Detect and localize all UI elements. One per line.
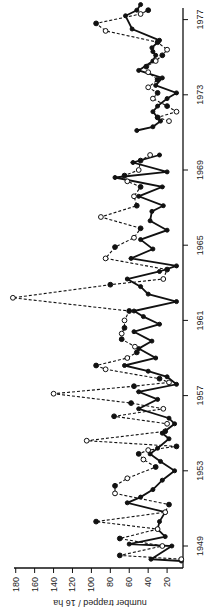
data-point: [146, 85, 151, 90]
data-point: [133, 344, 138, 349]
data-point: [155, 527, 160, 532]
data-point: [125, 476, 130, 481]
data-point: [165, 228, 169, 232]
data-point: [141, 315, 145, 319]
data-point: [175, 264, 179, 268]
data-point: [129, 401, 134, 406]
data-point: [170, 544, 174, 548]
y-tick-label: 120: [67, 577, 77, 592]
data-point: [99, 215, 104, 220]
x-tick-label: 1965: [195, 235, 205, 255]
data-point: [132, 194, 137, 199]
data-point: [175, 300, 179, 304]
data-point: [144, 64, 149, 69]
data-point: [148, 219, 152, 223]
data-point: [151, 96, 156, 101]
series-dashed: [11, 8, 184, 562]
data-point: [112, 414, 117, 419]
data-point: [125, 356, 130, 361]
data-point: [160, 53, 165, 58]
series-line: [96, 10, 176, 121]
data-point: [167, 502, 172, 507]
data-point: [153, 465, 158, 470]
y-tick-label: 60: [124, 577, 134, 587]
x-tick-label: 1953: [195, 461, 205, 481]
data-point: [158, 153, 162, 157]
y-tick-label: 180: [11, 577, 21, 592]
data-point: [122, 173, 127, 178]
data-point: [155, 91, 160, 96]
data-point: [165, 97, 169, 101]
data-point: [125, 277, 129, 281]
data-point: [163, 429, 168, 434]
data-point: [137, 390, 141, 394]
data-point: [132, 309, 136, 313]
data-point: [123, 364, 127, 368]
data-point: [157, 376, 162, 381]
y-tick-label: 20: [162, 577, 172, 587]
y-axis-title: number trapped / 16 ha: [53, 598, 147, 608]
data-point: [138, 12, 143, 17]
y-tick-label: 100: [86, 577, 96, 592]
data-point: [127, 542, 131, 546]
data-point: [138, 226, 143, 231]
y-tick-label: 160: [30, 577, 40, 592]
data-point: [122, 326, 127, 331]
x-tick-label: 1977: [195, 10, 205, 30]
data-point: [151, 125, 155, 129]
data-point: [138, 158, 143, 163]
data-point: [135, 129, 139, 133]
data-point: [175, 382, 179, 386]
data-point: [146, 70, 151, 75]
data-point: [163, 535, 167, 539]
data-point: [154, 83, 158, 87]
data-point: [165, 47, 170, 52]
data-point: [138, 185, 143, 190]
data-point: [165, 104, 170, 109]
data-point: [11, 295, 16, 300]
data-point: [131, 161, 135, 165]
data-point: [175, 91, 179, 95]
data-point: [139, 3, 143, 7]
data-point: [173, 422, 177, 426]
data-point: [125, 179, 130, 184]
data-point: [146, 8, 151, 13]
data-point: [94, 519, 99, 524]
data-point: [113, 176, 117, 180]
data-point: [108, 282, 113, 287]
data-point: [51, 391, 56, 396]
data-point: [132, 235, 137, 240]
population-chart: 2040608010012014016018019491953195719611…: [0, 0, 212, 611]
y-tick-label: 40: [143, 577, 153, 587]
data-point: [129, 256, 133, 260]
y-tick-label: 80: [105, 577, 115, 587]
x-tick-label: 1973: [195, 85, 205, 105]
data-point: [139, 285, 143, 289]
data-point: [151, 110, 155, 114]
data-point: [167, 119, 172, 124]
data-point: [130, 27, 134, 31]
data-point: [151, 247, 155, 251]
data-point: [119, 331, 124, 336]
data-point: [103, 256, 108, 261]
data-point: [141, 457, 146, 462]
data-point: [146, 292, 150, 296]
x-tick-label: 1961: [195, 310, 205, 330]
data-point: [113, 483, 118, 488]
data-point: [154, 356, 158, 360]
data-point: [155, 40, 160, 45]
data-point: [137, 68, 141, 72]
data-point: [160, 185, 164, 189]
data-point: [160, 544, 165, 549]
data-point: [159, 459, 163, 463]
data-point: [148, 153, 153, 158]
data-point: [167, 380, 172, 385]
data-point: [165, 375, 169, 379]
data-point: [158, 322, 162, 326]
y-tick-label: 140: [49, 577, 59, 592]
data-point: [150, 339, 154, 343]
data-point: [163, 510, 168, 515]
x-tick-label: 1957: [195, 386, 205, 406]
data-point: [167, 437, 171, 441]
data-point: [146, 448, 151, 453]
